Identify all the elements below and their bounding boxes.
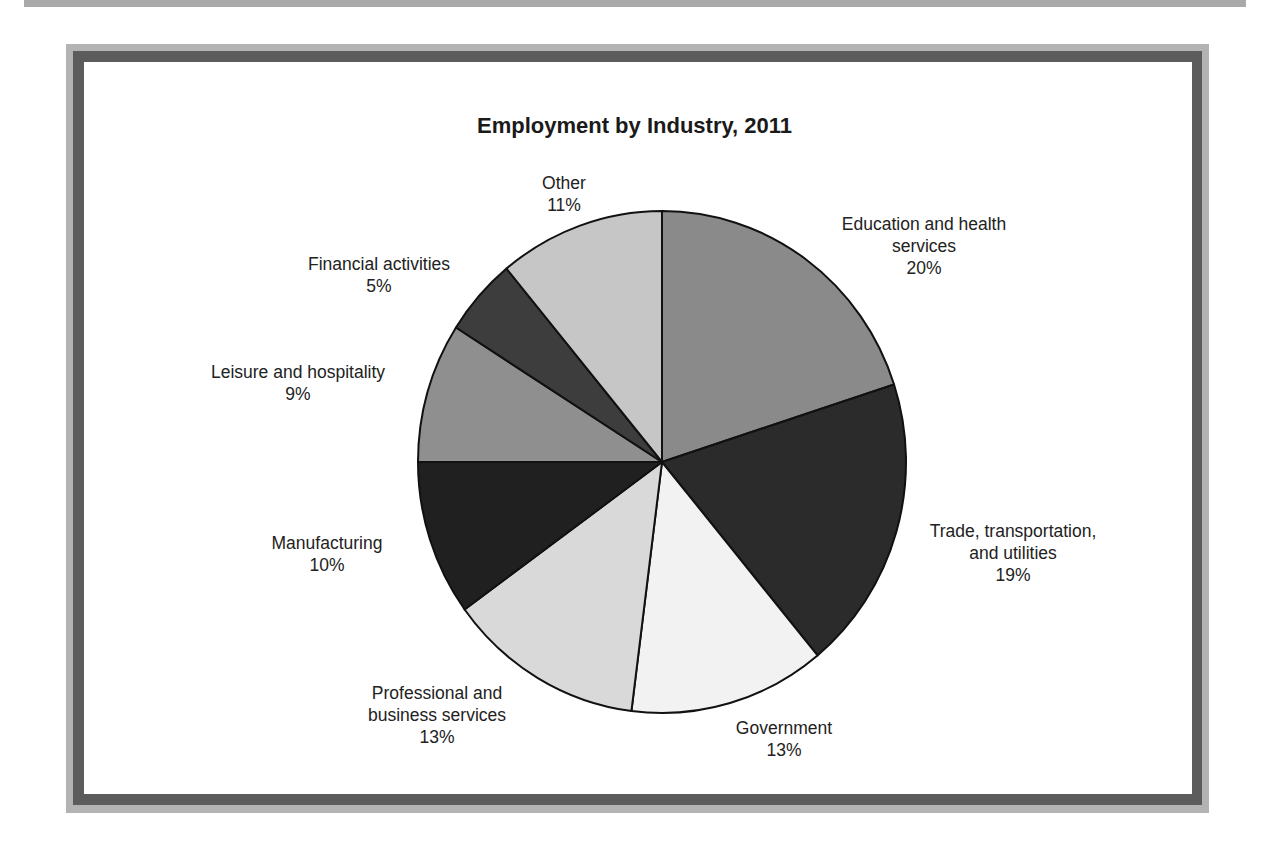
slice-label: Financial activities5% xyxy=(308,253,450,297)
slice-percent: 19% xyxy=(930,564,1097,586)
slice-label: Manufacturing10% xyxy=(272,532,383,576)
slice-name: and utilities xyxy=(930,542,1097,564)
slice-percent: 13% xyxy=(368,726,506,748)
slice-label: Education and healthservices20% xyxy=(842,213,1006,279)
slice-label: Other11% xyxy=(542,172,586,216)
slice-label: Government13% xyxy=(736,717,832,761)
slice-label: Leisure and hospitality9% xyxy=(211,361,385,405)
slice-name: Financial activities xyxy=(308,253,450,275)
slice-percent: 11% xyxy=(542,194,586,216)
slice-name: Education and health xyxy=(842,213,1006,235)
slice-name: Government xyxy=(736,717,832,739)
slice-name: services xyxy=(842,235,1006,257)
slice-name: Trade, transportation, xyxy=(930,520,1097,542)
slice-name: Professional and xyxy=(368,682,506,704)
slice-percent: 9% xyxy=(211,383,385,405)
slice-name: business services xyxy=(368,704,506,726)
slice-percent: 13% xyxy=(736,739,832,761)
slice-name: Leisure and hospitality xyxy=(211,361,385,383)
slice-label: Professional andbusiness services13% xyxy=(368,682,506,748)
slice-percent: 20% xyxy=(842,257,1006,279)
slice-label: Trade, transportation,and utilities19% xyxy=(930,520,1097,586)
slice-name: Other xyxy=(542,172,586,194)
slice-percent: 10% xyxy=(272,554,383,576)
pie-chart xyxy=(0,0,1269,850)
slice-name: Manufacturing xyxy=(272,532,383,554)
slice-percent: 5% xyxy=(308,275,450,297)
